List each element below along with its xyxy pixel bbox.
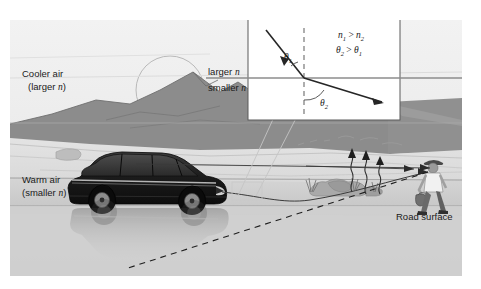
road-surface-label: Road surface (396, 211, 453, 222)
scene-svg: Cooler air (larger n) Warm air (smaller … (10, 20, 462, 276)
small-rock (56, 149, 81, 160)
cooler-air-label-line1: Cooler air (22, 68, 63, 79)
inset-smaller-n-label: smaller n (208, 82, 246, 93)
warm-air-label-line2: (smaller n) (22, 187, 66, 198)
inset-relation-n: n1 > n2 (338, 30, 365, 42)
inset-larger-n-label: larger n (208, 66, 240, 77)
cooler-air-label-line2: (larger n) (28, 81, 66, 92)
warm-air-label-line1: Warm air (22, 174, 60, 185)
mirage-scene: Cooler air (larger n) Warm air (smaller … (10, 20, 462, 276)
inset-relation-theta: θ2 > θ1 (336, 45, 362, 57)
figure-root: Cooler air (larger n) Warm air (smaller … (0, 0, 481, 289)
